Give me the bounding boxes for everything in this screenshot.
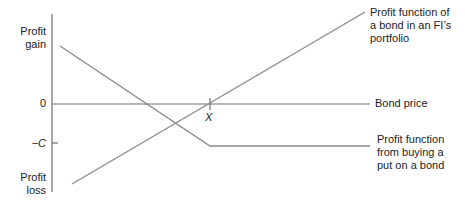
- minus-c-label: −C: [0, 137, 46, 150]
- bond-profit-line: [72, 12, 365, 184]
- put-profit-line: [60, 46, 370, 146]
- bond-profit-legend: Profit function of a bond in an FI’s por…: [370, 6, 451, 45]
- strike-label: X: [205, 111, 212, 124]
- profit-gain-label: Profit gain: [0, 25, 46, 51]
- zero-label: 0: [0, 97, 46, 110]
- put-profit-legend: Profit function from buying a put on a b…: [377, 133, 444, 172]
- profit-loss-label: Profit loss: [0, 171, 46, 197]
- bond-price-label: Bond price: [375, 97, 428, 110]
